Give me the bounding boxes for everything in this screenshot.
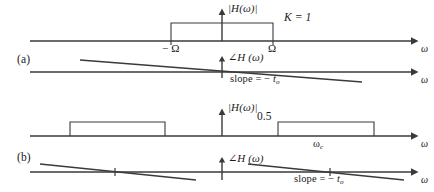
filter-response-figure: |H(ω)| K = 1 − Ω Ω ω (a) ∠H (ω) slope = … xyxy=(0,0,434,192)
panel-b-phase-axis-label: ∠H (ω) xyxy=(228,153,264,164)
panel-a-tick-label-pos-omega: Ω xyxy=(268,43,276,54)
panel-a-magnitude-x-axis-arrow xyxy=(411,37,419,45)
panel-b-amplitude-value-label: 0.5 xyxy=(257,111,272,123)
panel-b-cutoff-frequency-subscript: c xyxy=(320,143,323,151)
panel-a-slope-annotation-subscript: o xyxy=(276,78,280,86)
panel-a-tick-label-neg-omega: − Ω xyxy=(162,43,179,54)
panel-a-magnitude-x-axis-label: ω xyxy=(421,44,428,54)
panel-a-slope-annotation-prefix: slope = − xyxy=(230,73,273,84)
panel-a-gain-label: K = 1 xyxy=(284,12,311,24)
panel-b-magnitude-axis-label: |H(ω)| xyxy=(228,102,258,113)
panel-a-phase-plot xyxy=(30,56,419,82)
panel-b-slope-annotation-subscript: o xyxy=(340,178,344,186)
panel-a-phase-x-axis-arrow xyxy=(411,68,419,76)
panel-b-magnitude-x-axis-arrow xyxy=(411,132,419,140)
panel-b-slope-annotation: slope = − to xyxy=(294,174,344,186)
panel-b-passband-rectangle-negative xyxy=(70,122,165,136)
panel-a-magnitude-plot xyxy=(30,9,419,46)
panel-a-slope-annotation: slope = − to xyxy=(230,74,280,86)
panel-a-phase-axis-label: ∠H (ω) xyxy=(228,52,264,63)
panel-a-tag: (a) xyxy=(17,54,30,66)
figure-canvas xyxy=(0,0,434,192)
panel-b-phase-x-axis-arrow xyxy=(411,168,419,176)
panel-b-magnitude-x-axis-label: ω xyxy=(421,139,428,149)
panel-b-phase-y-axis-arrow xyxy=(219,157,225,163)
panel-b-cutoff-frequency-symbol: ω xyxy=(313,138,320,149)
panel-b-magnitude-plot xyxy=(30,109,419,140)
panel-a-phase-x-axis-label: ω xyxy=(421,75,428,85)
panel-b-slope-annotation-prefix: slope = − xyxy=(294,173,337,184)
panel-b-cutoff-frequency-label: ωc xyxy=(313,139,323,151)
panel-a-magnitude-y-axis-arrow xyxy=(219,9,226,16)
panel-b-phase-x-axis-label: ω xyxy=(421,175,428,185)
panel-a-phase-slope-line xyxy=(80,60,362,82)
panel-a-phase-y-axis-arrow xyxy=(219,56,225,62)
panel-b-tag: (b) xyxy=(17,152,31,164)
panel-b-passband-rectangle-positive xyxy=(278,122,374,136)
panel-b-magnitude-y-axis-arrow xyxy=(219,109,226,116)
panel-a-magnitude-axis-label: |H(ω)| xyxy=(228,3,258,14)
panel-b-phase-plot xyxy=(30,157,419,180)
